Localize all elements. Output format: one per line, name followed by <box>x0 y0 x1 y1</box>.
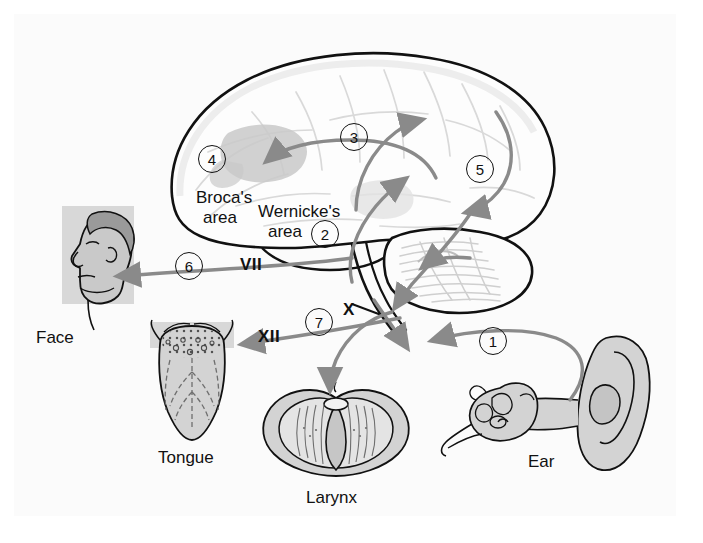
step-marker-6: 6 <box>175 252 203 280</box>
larynx-label: Larynx <box>306 488 357 508</box>
face-label: Face <box>36 328 74 348</box>
brocas-area-label-line1: Broca's <box>196 188 252 208</box>
step-marker-7: 7 <box>305 308 333 336</box>
brocas-area-label-line2: area <box>203 208 237 228</box>
arrow-7-x-to-larynx <box>330 312 392 388</box>
ear-label: Ear <box>528 452 554 472</box>
step-marker-2: 2 <box>311 220 339 248</box>
pathway-arrow-layer <box>0 0 703 543</box>
nerve-label-vagus: X <box>343 300 355 320</box>
figure-canvas: Broca's area Wernicke's area Face Tongue… <box>0 0 703 543</box>
wernickes-area-label-line1: Wernicke's <box>258 202 340 222</box>
step-marker-4: 4 <box>198 145 226 173</box>
wernickes-area-label-line2: area <box>268 222 302 242</box>
nerve-label-hypoglossal: XII <box>258 327 280 347</box>
step-marker-3: 3 <box>340 123 368 151</box>
tongue-label: Tongue <box>158 448 214 468</box>
step-marker-5: 5 <box>466 155 494 183</box>
arrow-6-vii-to-face <box>120 258 352 276</box>
step-marker-1: 1 <box>479 327 507 355</box>
nerve-label-facial: VII <box>240 255 262 275</box>
arrow-1-ear-to-brainstem <box>434 331 582 400</box>
